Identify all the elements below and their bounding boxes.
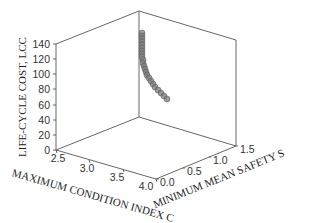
chart-3d-scatter: 140 120 100 80 60 40 20 0 LIFE-CYCLE COS… [0, 0, 313, 223]
y-tick-label: 0.0 [160, 176, 175, 188]
z-tick-label: 60 [38, 99, 50, 111]
x-axis-label: MAXIMUM CONDITION INDEX C [11, 166, 176, 223]
z-tick-label: 40 [38, 114, 50, 126]
y-tick-label: 1.5 [240, 143, 255, 155]
axes-box [56, 11, 236, 179]
x-tick-label: 4.0 [139, 180, 154, 192]
z-tick-label: 0 [44, 144, 50, 156]
y-tick-label: 0.5 [187, 165, 202, 177]
x-tick-label: 3.5 [110, 171, 125, 183]
z-axis-label: LIFE-CYCLE COST, LCC [16, 37, 28, 157]
z-tick-label: 20 [38, 129, 50, 141]
z-tick-label: 140 [32, 38, 50, 50]
z-tick-label: 120 [32, 53, 50, 65]
z-tick-label: 80 [38, 83, 50, 95]
data-point [164, 96, 170, 102]
data-points [139, 30, 170, 102]
x-tick-label: 3.0 [80, 162, 95, 174]
z-tick-labels: 140 120 100 80 60 40 20 0 [32, 38, 50, 156]
y-tick-label: 1.0 [213, 154, 228, 166]
x-tick-label: 2.5 [51, 152, 66, 164]
z-tick-label: 100 [32, 68, 50, 80]
